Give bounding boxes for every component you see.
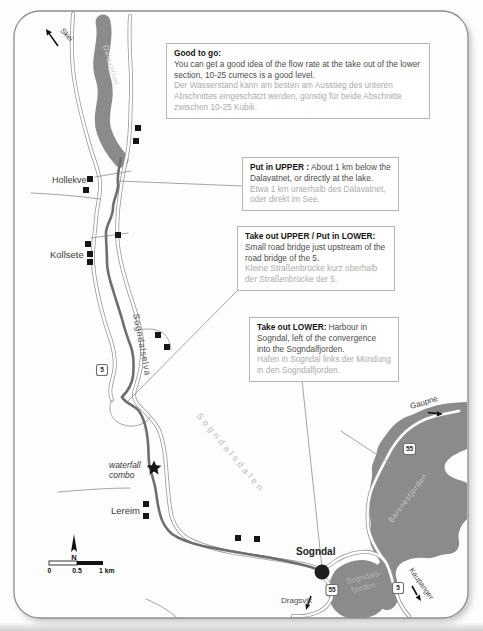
scale-bar: 0 0.5 1 km xyxy=(48,561,115,574)
info-box-text-de: Der Wasserstand kann am besten am Aussti… xyxy=(174,80,422,112)
shield-valley-5: 5 xyxy=(97,365,108,376)
info-box-put-in-upper: Put in UPPER :About 1 km below the Dalav… xyxy=(242,157,399,211)
info-box-title: Take out LOWER: xyxy=(257,322,326,332)
kaupanger-label: Kaupanger xyxy=(407,566,436,602)
svg-text:1 km: 1 km xyxy=(99,567,115,574)
dalavatnet-lake xyxy=(101,22,121,160)
info-box-good-to-go: Good to go: You can get a good idea of t… xyxy=(166,43,430,119)
waterfall-label-1: waterfall xyxy=(109,460,142,470)
shield-sogndal-55: 55 xyxy=(326,585,338,596)
svg-text:5: 5 xyxy=(100,366,104,373)
shield-kaupanger-5: 5 xyxy=(393,583,404,594)
svg-text:0.5: 0.5 xyxy=(72,567,82,574)
info-box-text-en: Small road bridge just upstream of the r… xyxy=(245,242,387,264)
north-arrow: N xyxy=(71,534,77,562)
svg-text:55: 55 xyxy=(406,445,414,452)
svg-text:55: 55 xyxy=(328,586,336,593)
info-box-title: Good to go: xyxy=(174,48,422,59)
skei-arrow xyxy=(46,29,58,46)
harbour-dot xyxy=(315,565,330,580)
dragsvik-label: Dragsvik xyxy=(281,596,313,605)
kollsete-label: Kollsete xyxy=(50,249,84,260)
lereim-label: Lereim xyxy=(111,505,140,516)
sogndal-label: Sogndal xyxy=(296,546,336,557)
info-box-title: Take out UPPER / Put in LOWER: xyxy=(245,231,387,242)
shield-gaupne-55: 55 xyxy=(404,444,416,455)
svg-text:5: 5 xyxy=(396,584,400,591)
info-box-take-out-upper: Take out UPPER / Put in LOWER: Small roa… xyxy=(237,226,395,291)
svg-text:0: 0 xyxy=(48,567,52,574)
info-box-title: Put in UPPER : xyxy=(250,162,309,172)
waterfall-label-2: combo xyxy=(109,470,135,480)
hollekve-label: Hollekve xyxy=(52,175,87,185)
info-box-text-de: Etwa 1 km unterhalb des Dalavatnet, oder… xyxy=(250,184,391,206)
guidebook-map-page: 5 55 55 5 xyxy=(0,0,483,631)
info-box-text-de: Kleine Straßenbrücke kurz oberhalb der S… xyxy=(245,263,387,285)
info-box-text-en: You can get a good idea of the flow rate… xyxy=(174,59,422,81)
info-box-text-de: Hafen in Sogndal links der Mündung in de… xyxy=(257,354,391,376)
valley-label: Sogndalsdalen xyxy=(194,411,267,495)
info-box-take-out-lower: Take out LOWER:Harbour in Sogndal, left … xyxy=(249,317,399,382)
